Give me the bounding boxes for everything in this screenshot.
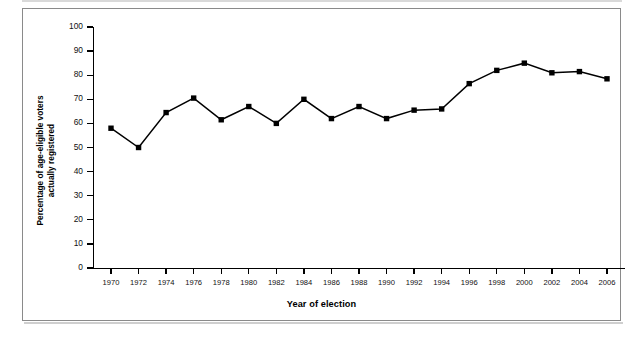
data-point-marker (108, 126, 113, 131)
y-axis-title: Percentage of age-eligible voters actual… (35, 61, 56, 261)
x-axis-title: Year of election (0, 299, 643, 309)
data-point-marker (384, 116, 389, 121)
data-point-marker (577, 69, 582, 74)
y-axis-title-line2: actually registered (45, 124, 55, 197)
data-point-marker (246, 104, 251, 109)
plot-area: 0102030405060708090100 19701972197419761… (0, 0, 643, 337)
figure-root: 0102030405060708090100 19701972197419761… (0, 0, 643, 337)
data-point-marker (136, 145, 141, 150)
data-point-marker (329, 116, 334, 121)
data-point-marker (274, 121, 279, 126)
data-point-marker (604, 76, 609, 81)
data-point-marker (356, 104, 361, 109)
data-point-marker (494, 68, 499, 73)
y-axis-title-line1: Percentage of age-eligible voters (35, 95, 45, 225)
data-point-marker (301, 97, 306, 102)
data-point-marker (411, 107, 416, 112)
series-markers (108, 60, 609, 150)
data-point-marker (467, 81, 472, 86)
data-point-marker (522, 60, 527, 65)
data-point-marker (219, 117, 224, 122)
data-point-marker (549, 70, 554, 75)
data-point-marker (191, 95, 196, 100)
data-point-marker (439, 106, 444, 111)
data-point-marker (163, 110, 168, 115)
data-series-svg (0, 0, 643, 337)
